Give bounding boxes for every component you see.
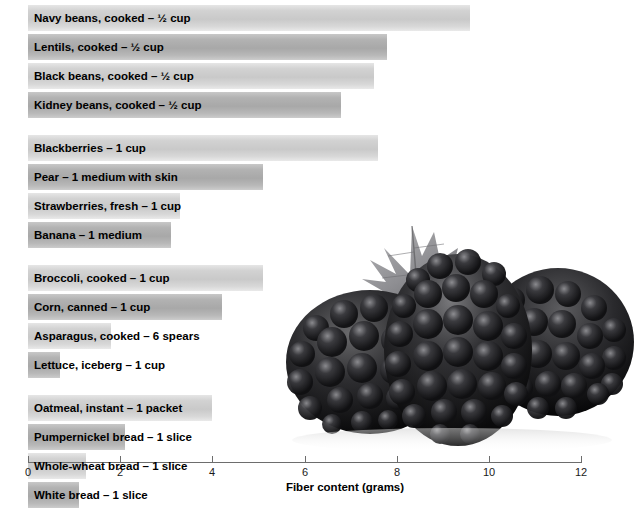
bar-row[interactable]: Oatmeal, instant – 1 packet [28, 395, 581, 421]
bar-label: Black beans, cooked – ½ cup [34, 63, 194, 89]
bar-label: Pear – 1 medium with skin [34, 164, 178, 190]
bar-row[interactable]: Pumpernickel bread – 1 slice [28, 424, 581, 450]
bar-group-breads: BreadsOatmeal, instant – 1 packetPumpern… [0, 395, 634, 508]
bar-label: Pumpernickel bread – 1 slice [34, 424, 192, 450]
bar-row[interactable]: Banana – 1 medium [28, 222, 581, 248]
bar-row[interactable]: Navy beans, cooked – ½ cup [28, 5, 581, 31]
bar-label: Kidney beans, cooked – ½ cup [34, 92, 201, 118]
bar-label: Lentils, cooked – ½ cup [34, 34, 164, 60]
bar-label: White bread – 1 slice [34, 482, 148, 508]
bar-row[interactable]: Strawberries, fresh – 1 cup [28, 193, 581, 219]
bar-label: Corn, canned – 1 cup [34, 294, 150, 320]
bar-row[interactable]: Black beans, cooked – ½ cup [28, 63, 581, 89]
group-label-breads: Breads [0, 508, 2, 512]
bar-row[interactable]: Lentils, cooked – ½ cup [28, 34, 581, 60]
bar-row[interactable]: Blackberries – 1 cup [28, 135, 581, 161]
bar-group-vegetables: VegetablesBroccoli, cooked – 1 cupCorn, … [0, 265, 634, 378]
bar-row[interactable]: White bread – 1 slice [28, 482, 581, 508]
bar-label: Asparagus, cooked – 6 spears [34, 323, 200, 349]
bar-label: Broccoli, cooked – 1 cup [34, 265, 169, 291]
bar-group-legumes: LegumesNavy beans, cooked – ½ cupLentils… [0, 5, 634, 118]
bar-label: Lettuce, iceberg – 1 cup [34, 352, 165, 378]
bar-row[interactable]: Lettuce, iceberg – 1 cup [28, 352, 581, 378]
bar-group-fruits: FruitsBlackberries – 1 cupPear – 1 mediu… [0, 135, 634, 248]
bar-label: Banana – 1 medium [34, 222, 142, 248]
bar-row[interactable]: Pear – 1 medium with skin [28, 164, 581, 190]
bar-row[interactable]: Corn, canned – 1 cup [28, 294, 581, 320]
bar-row[interactable]: Whole-wheat bread – 1 slice [28, 453, 581, 479]
bar-row[interactable]: Kidney beans, cooked – ½ cup [28, 92, 581, 118]
bar-row[interactable]: Asparagus, cooked – 6 spears [28, 323, 581, 349]
bar-row[interactable]: Broccoli, cooked – 1 cup [28, 265, 581, 291]
bar-label: Whole-wheat bread – 1 slice [34, 453, 187, 479]
plot-area: LegumesNavy beans, cooked – ½ cupLentils… [0, 0, 634, 462]
bar-label: Strawberries, fresh – 1 cup [34, 193, 181, 219]
bar-label: Navy beans, cooked – ½ cup [34, 5, 191, 31]
bar-label: Oatmeal, instant – 1 packet [34, 395, 182, 421]
bar-label: Blackberries – 1 cup [34, 135, 146, 161]
